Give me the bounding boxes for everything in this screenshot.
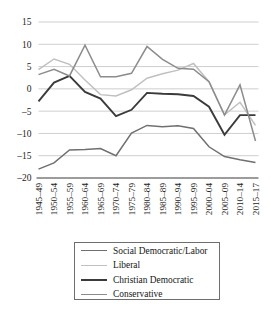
chart-figure: 151050–5–10–15–20 1945–491950–541955–591… — [0, 0, 270, 309]
y-axis-tick-label: –10 — [16, 129, 32, 139]
chart-legend: Social Democratic/LaborLiberalChristian … — [74, 242, 220, 300]
y-axis-tick-label: 5 — [27, 62, 32, 72]
legend-item-label: Christian Democratic — [113, 275, 193, 285]
y-axis-tick-labels: 151050–5–10–15–20 — [16, 17, 32, 183]
x-axis-tick-label: 1995–99 — [189, 183, 199, 216]
x-axis-tick-label: 1950–54 — [49, 183, 59, 216]
x-axis-tick-label: 1985–89 — [158, 183, 168, 216]
x-axis-tick-label: 1955–59 — [65, 183, 75, 216]
legend-item-label: Liberal — [113, 260, 140, 270]
legend-line-swatch — [81, 265, 107, 266]
legend-item[interactable]: Social Democratic/Labor — [75, 244, 219, 258]
legend-item[interactable]: Conservative — [75, 288, 219, 302]
x-axis-tick-label: 1960–64 — [80, 183, 90, 216]
legend-item[interactable]: Liberal — [75, 259, 219, 273]
data-series — [39, 45, 256, 169]
legend-item[interactable]: Christian Democratic — [75, 273, 219, 287]
x-axis-tick-label: 1975–79 — [127, 183, 137, 216]
y-axis-tick-label: –5 — [21, 107, 32, 117]
y-axis-tick-label: –15 — [16, 151, 32, 161]
y-axis-tick-label: –20 — [16, 173, 32, 183]
x-axis-tick-label: 1945–49 — [34, 183, 44, 216]
gridlines — [39, 22, 259, 156]
x-axis-tick-label: 1990–94 — [173, 183, 183, 216]
x-axis-tick-label: 2015–17 — [251, 183, 261, 216]
legend-line-swatch — [81, 279, 107, 281]
legend-line-swatch — [81, 294, 107, 295]
legend-line-swatch — [81, 250, 107, 251]
x-axis-tick-label: 2000–04 — [204, 183, 214, 216]
y-axis-tick-label: 10 — [22, 40, 32, 50]
y-axis-tick-label: 0 — [27, 84, 32, 94]
x-axis-tick-label: 1965–69 — [96, 183, 106, 216]
x-axis-tick-label: 2010–14 — [235, 183, 245, 216]
x-axis-tick-label: 1980–84 — [142, 183, 152, 216]
x-axis-tick-labels: 1945–491950–541955–591960–641965–691970–… — [34, 183, 261, 216]
legend-item-label: Conservative — [113, 289, 162, 299]
legend-item-label: Social Democratic/Labor — [113, 246, 208, 256]
y-axis-tick-label: 15 — [22, 17, 32, 27]
x-axis-tick-label: 2005–09 — [220, 183, 230, 216]
x-axis-tick-label: 1970–74 — [111, 183, 121, 216]
